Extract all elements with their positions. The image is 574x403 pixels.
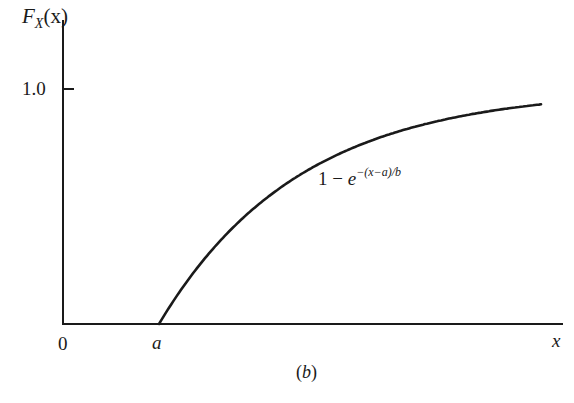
x-tick-label-0: 0	[58, 333, 68, 355]
x-axis-label: x	[552, 330, 560, 352]
formula-exponent: −(x−a)/b	[356, 165, 401, 179]
caption-close-paren: )	[311, 362, 317, 382]
y-axis-label-subscript: X	[35, 16, 44, 31]
formula-one-minus: 1 −	[318, 168, 348, 189]
caption-letter: b	[302, 362, 311, 382]
formula-e: e	[348, 168, 356, 189]
y-axis-label-arg: (x)	[43, 4, 68, 28]
y-axis-label-main: F	[22, 4, 35, 28]
cdf-curve	[159, 104, 541, 324]
y-tick-label-1: 1.0	[22, 78, 46, 100]
figure-caption: (b)	[296, 362, 317, 383]
x-tick-label-a: a	[152, 332, 162, 354]
cdf-figure: FX(x) 1.0 0 a x 1 − e−(x−a)/b (b)	[0, 0, 574, 403]
y-axis-label: FX(x)	[22, 4, 68, 29]
plot-area	[0, 0, 574, 403]
curve-formula-annotation: 1 − e−(x−a)/b	[318, 168, 401, 190]
